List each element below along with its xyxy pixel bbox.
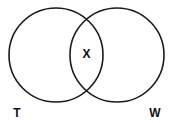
- intersection-label: X: [82, 47, 90, 61]
- venn-diagram: X T W: [0, 0, 172, 123]
- set-label-t: T: [13, 106, 21, 120]
- set-label-w: W: [149, 106, 161, 120]
